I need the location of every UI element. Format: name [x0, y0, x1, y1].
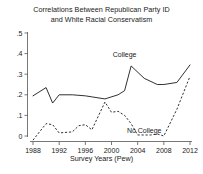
x-tick-label: 2008 [156, 147, 172, 154]
x-tick-label: 1988 [25, 147, 41, 154]
y-tick-label: .3 [17, 71, 23, 78]
y-tick-label: .4 [17, 50, 23, 57]
x-tick-label: 2000 [104, 147, 120, 154]
y-tick-label: .2 [17, 91, 23, 98]
series-label-no-college: No College [127, 127, 162, 135]
x-tick-label: 2012 [182, 147, 198, 154]
x-axis-tick-labels: 1988199219962000200420082012 [25, 147, 198, 154]
series-line-college [33, 65, 190, 103]
chart-figure: Correlations Between Republican Party ID… [0, 0, 203, 174]
data-series-group [33, 65, 190, 140]
y-axis-tick-labels: 0.1.2.3.4.5 [17, 30, 23, 140]
series-line-no-college [33, 76, 190, 140]
series-label-college: College [113, 51, 137, 59]
plot-area: 0.1.2.3.4.5 1988199219962000200420082012… [0, 0, 203, 174]
x-axis: 1988199219962000200420082012 [25, 142, 198, 155]
y-tick-label: .1 [17, 112, 23, 119]
x-axis-ticks [33, 142, 190, 146]
x-tick-label: 1996 [78, 147, 94, 154]
y-tick-label: 0 [19, 133, 23, 140]
x-axis-title: Survey Years (Pew) [0, 154, 203, 163]
series-annotation-labels: CollegeNo College [113, 51, 162, 135]
x-tick-label: 2004 [130, 147, 146, 154]
y-axis: 0.1.2.3.4.5 [17, 30, 28, 140]
y-axis-ticks [25, 33, 28, 136]
x-tick-label: 1992 [51, 147, 67, 154]
y-tick-label: .5 [17, 30, 23, 37]
